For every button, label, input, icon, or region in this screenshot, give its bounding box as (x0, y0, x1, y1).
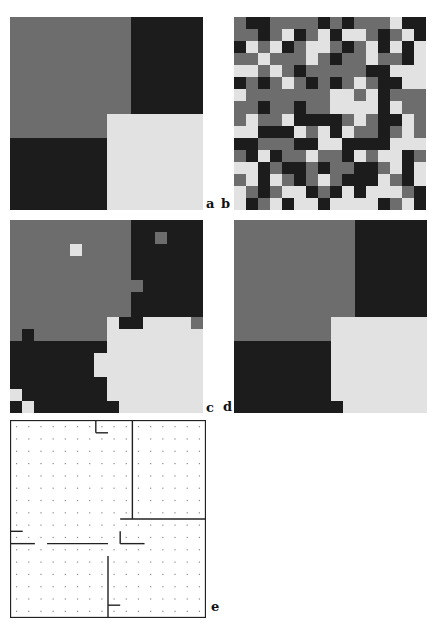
pixel-cell (282, 256, 294, 268)
pixel-cell (318, 114, 330, 126)
pixel-cell (179, 280, 191, 292)
lattice-dot (126, 451, 127, 452)
pixel-cell (94, 280, 106, 292)
pixel-cell (82, 65, 94, 77)
lattice-dot (199, 561, 200, 562)
pixel-cell (191, 304, 203, 316)
pixel-cell (342, 17, 354, 29)
pixel-cell (282, 53, 294, 65)
lattice-dot (40, 500, 41, 501)
pixel-cell (155, 292, 167, 304)
lattice-dot (53, 598, 54, 599)
lattice-dot (138, 475, 139, 476)
lattice-dot (101, 598, 102, 599)
pixel-cell (82, 329, 94, 341)
pixel-cell (179, 174, 191, 186)
pixel-cell (402, 114, 414, 126)
lattice-dot (126, 463, 127, 464)
pixel-cell (22, 126, 34, 138)
pixel-cell (167, 114, 179, 126)
lattice-dot (89, 438, 90, 439)
pixel-cell (46, 138, 58, 150)
pixel-cell (10, 198, 22, 210)
pixel-cell (10, 29, 22, 41)
pixel-cell (143, 341, 155, 353)
pixel-cell (155, 138, 167, 150)
lattice-dot (174, 574, 175, 575)
pixel-cell (342, 53, 354, 65)
pixel-cell (414, 17, 426, 29)
pixel-cell (402, 126, 414, 138)
pixel-cell (354, 53, 366, 65)
pixel-cell (107, 232, 119, 244)
pixel-cell (294, 292, 306, 304)
pixel-cell (343, 232, 355, 244)
pixel-cell (415, 401, 427, 413)
pixel-cell (403, 232, 415, 244)
lattice-dot (65, 537, 66, 538)
pixel-cell (258, 256, 270, 268)
lattice-dot (113, 475, 114, 476)
lattice-dot (65, 611, 66, 612)
pixel-cell (402, 101, 414, 113)
pixel-cell (378, 29, 390, 41)
lattice-dot (187, 512, 188, 513)
lattice-dot (138, 438, 139, 439)
pixel-cell (258, 401, 270, 413)
pixel-cell (22, 329, 34, 341)
pixel-cell (270, 317, 282, 329)
pixel-cell (415, 244, 427, 256)
pixel-cell (46, 29, 58, 41)
pixel-cell (294, 329, 306, 341)
pixel-cell (294, 280, 306, 292)
pixel-cell (403, 353, 415, 365)
lattice-dot (16, 451, 17, 452)
pixel-cell (34, 198, 46, 210)
pixel-cell (355, 256, 367, 268)
pixel-cell (294, 256, 306, 268)
pixel-cell (234, 53, 246, 65)
panel-b-noisy-image (234, 17, 426, 210)
pixel-cell (391, 232, 403, 244)
pixel-cell (179, 329, 191, 341)
pixel-cell (306, 29, 318, 41)
pixel-cell (330, 17, 342, 29)
lattice-dot (162, 463, 163, 464)
pixel-cell (10, 280, 22, 292)
pixel-cell (403, 304, 415, 316)
pixel-cell (70, 220, 82, 232)
pixel-cell (58, 232, 70, 244)
pixel-cell (58, 138, 70, 150)
pixel-cell (131, 244, 143, 256)
pixel-cell (355, 365, 367, 377)
pixel-cell (82, 292, 94, 304)
pixel-cell (294, 365, 306, 377)
pixel-cell (258, 365, 270, 377)
pixel-cell (155, 65, 167, 77)
pixel-cell (46, 126, 58, 138)
pixel-cell (294, 114, 306, 126)
pixel-cell (282, 401, 294, 413)
pixel-cell (330, 29, 342, 41)
lattice-dot (40, 549, 41, 550)
pixel-cell (94, 65, 106, 77)
pixel-cell (355, 220, 367, 232)
pixel-cell (246, 268, 258, 280)
pixel-cell (46, 304, 58, 316)
pixel-cell (143, 244, 155, 256)
pixel-cell (82, 377, 94, 389)
pixel-cell (94, 174, 106, 186)
pixel-cell (143, 174, 155, 186)
pixel-cell (390, 17, 402, 29)
pixel-cell (94, 244, 106, 256)
pixel-cell (143, 89, 155, 101)
pixel-cell (367, 280, 379, 292)
panel-label-a: a (206, 197, 214, 210)
pixel-cell (354, 17, 366, 29)
pixel-cell (34, 114, 46, 126)
pixel-cell (191, 77, 203, 89)
lattice-dot (150, 463, 151, 464)
pixel-cell (70, 317, 82, 329)
pixel-cell (294, 198, 306, 210)
pixel-cell (119, 304, 131, 316)
